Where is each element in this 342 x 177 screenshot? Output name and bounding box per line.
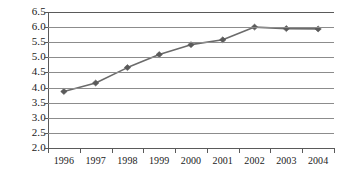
gridline <box>48 118 334 119</box>
gridline <box>48 88 334 89</box>
plot-area <box>48 12 334 148</box>
x-axis-tick-label: 2004 <box>298 155 338 167</box>
gridline <box>48 72 334 73</box>
gridline <box>48 27 334 28</box>
y-axis-tick-label: 5.5 <box>2 36 46 47</box>
x-axis-tick-mark <box>239 148 240 153</box>
gridline <box>48 12 334 13</box>
x-axis-ticks <box>48 148 334 154</box>
gridline <box>48 103 334 104</box>
data-point-marker <box>124 65 130 71</box>
x-axis-tick-mark <box>48 148 49 153</box>
y-axis-tick-label: 3.0 <box>2 112 46 123</box>
x-axis-tick-mark <box>112 148 113 153</box>
x-axis-labels: 199619971998199920002001200220032004 <box>48 155 334 171</box>
y-axis-tick-label: 4.5 <box>2 66 46 77</box>
y-axis-tick-label: 3.5 <box>2 97 46 108</box>
gridline <box>48 57 334 58</box>
x-axis-tick-mark <box>270 148 271 153</box>
line-chart: 2.02.53.03.54.04.55.05.56.06.5 199619971… <box>0 0 342 177</box>
x-axis-tick-mark <box>175 148 176 153</box>
y-axis-tick-label: 5.0 <box>2 51 46 62</box>
x-axis-tick-mark <box>80 148 81 153</box>
x-axis-tick-mark <box>302 148 303 153</box>
gridline <box>48 42 334 43</box>
series-line <box>64 27 318 91</box>
y-axis-labels: 2.02.53.03.54.04.55.05.56.06.5 <box>0 0 46 177</box>
x-axis-tick-mark <box>143 148 144 153</box>
y-axis-tick-label: 6.0 <box>2 21 46 32</box>
series-line-svg <box>48 12 334 148</box>
y-axis-tick-label: 4.0 <box>2 82 46 93</box>
y-axis-tick-label: 2.5 <box>2 127 46 138</box>
y-axis-tick-label: 6.5 <box>2 6 46 17</box>
x-axis-tick-mark <box>207 148 208 153</box>
data-point-marker <box>61 88 67 94</box>
data-point-marker <box>92 80 98 86</box>
y-axis-tick-label: 2.0 <box>2 142 46 153</box>
gridline <box>48 133 334 134</box>
x-axis-tick-mark <box>334 148 335 153</box>
